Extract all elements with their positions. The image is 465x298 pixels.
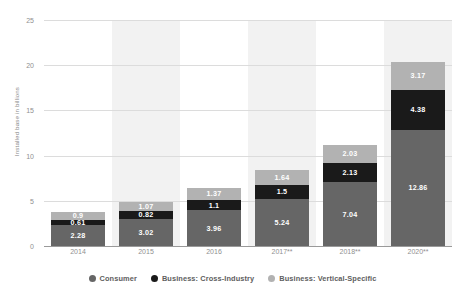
bar-segment-vertical-2014[interactable]: 0.9 (51, 212, 105, 220)
x-axis-tick-2015: 2015 (138, 248, 154, 255)
legend-item-consumer[interactable]: Consumer (89, 274, 137, 283)
bar-segment-consumer-2016[interactable]: 3.96 (187, 210, 241, 246)
bar-segment-consumer-2017[interactable]: 5.24 (255, 199, 309, 246)
bar-value-label: 12.86 (408, 184, 427, 191)
bar-segment-consumer-2018[interactable]: 7.04 (323, 182, 377, 246)
bar-group-2020[interactable]: 12.864.383.17 (391, 62, 445, 247)
legend-swatch-icon (151, 275, 158, 282)
bar-value-label: 0.61 (71, 219, 86, 226)
bar-segment-cross-2014[interactable]: 0.61 (51, 220, 105, 226)
bar-value-label: 1.37 (207, 190, 222, 197)
axis-baseline (44, 246, 452, 247)
bar-group-2017[interactable]: 5.241.51.64 (255, 170, 309, 246)
y-axis-tick-0: 0 (30, 243, 34, 250)
y-axis-tick-15: 15 (26, 107, 34, 114)
bar-segment-cross-2018[interactable]: 2.13 (323, 163, 377, 182)
bar-value-label: 4.38 (411, 106, 426, 113)
x-axis-tick-2014: 2014 (70, 248, 86, 255)
bar-value-label: 2.03 (343, 150, 358, 157)
x-axis-tick-2016: 2016 (206, 248, 222, 255)
legend-item-business-vertical-specific[interactable]: Business: Vertical-Specific (268, 274, 376, 283)
bar-value-label: 1.5 (277, 188, 288, 195)
plot-area: 2.280.610.93.020.821.073.961.11.375.241.… (44, 20, 452, 246)
bar-segment-vertical-2018[interactable]: 2.03 (323, 145, 377, 163)
bar-value-label: 0.82 (139, 211, 154, 218)
bar-value-label: 2.13 (343, 169, 358, 176)
bar-value-label: 2.28 (71, 232, 86, 239)
bar-value-label: 1.64 (275, 174, 290, 181)
legend-label: Consumer (100, 274, 137, 283)
bar-segment-consumer-2014[interactable]: 2.28 (51, 225, 105, 246)
chart-legend: ConsumerBusiness: Cross-IndustryBusiness… (0, 274, 465, 283)
x-axis-tick-2017: 2017** (271, 248, 292, 255)
legend-swatch-icon (268, 275, 275, 282)
bar-value-label: 7.04 (343, 211, 358, 218)
x-axis-tick-2020: 2020** (407, 248, 428, 255)
bar-value-label: 3.17 (411, 72, 426, 79)
y-axis-tick-labels: 0510152025 (0, 20, 40, 246)
y-axis-tick-20: 20 (26, 62, 34, 69)
bar-groups: 2.280.610.93.020.821.073.961.11.375.241.… (44, 20, 452, 246)
bar-value-label: 0.9 (73, 212, 84, 219)
bar-value-label: 1.07 (139, 203, 154, 210)
bar-value-label: 3.96 (207, 225, 222, 232)
bar-value-label: 1.1 (209, 202, 220, 209)
y-axis-tick-10: 10 (26, 152, 34, 159)
bar-segment-vertical-2017[interactable]: 1.64 (255, 170, 309, 185)
bar-segment-cross-2015[interactable]: 0.82 (119, 211, 173, 218)
bar-segment-cross-2017[interactable]: 1.5 (255, 185, 309, 199)
bar-group-2016[interactable]: 3.961.11.37 (187, 188, 241, 246)
x-axis-tick-labels: 2014201520162017**2018**2020** (44, 248, 452, 264)
y-axis-tick-5: 5 (30, 197, 34, 204)
x-axis-tick-2018: 2018** (339, 248, 360, 255)
bar-group-2014[interactable]: 2.280.610.9 (51, 212, 105, 246)
bar-value-label: 3.02 (139, 229, 154, 236)
legend-label: Business: Vertical-Specific (279, 274, 376, 283)
legend-item-business-cross-industry[interactable]: Business: Cross-Industry (151, 274, 254, 283)
bar-segment-consumer-2015[interactable]: 3.02 (119, 219, 173, 246)
legend-swatch-icon (89, 275, 96, 282)
bar-segment-cross-2020[interactable]: 4.38 (391, 90, 445, 130)
bar-segment-cross-2016[interactable]: 1.1 (187, 200, 241, 210)
bar-segment-consumer-2020[interactable]: 12.86 (391, 130, 445, 246)
bar-segment-vertical-2015[interactable]: 1.07 (119, 202, 173, 212)
bar-group-2018[interactable]: 7.042.132.03 (323, 145, 377, 246)
stacked-bar-chart: Installed base in billions 0510152025 2.… (0, 0, 465, 298)
bar-segment-vertical-2020[interactable]: 3.17 (391, 62, 445, 91)
legend-label: Business: Cross-Industry (162, 274, 254, 283)
bar-segment-vertical-2016[interactable]: 1.37 (187, 188, 241, 200)
bar-value-label: 5.24 (275, 219, 290, 226)
bar-group-2015[interactable]: 3.020.821.07 (119, 202, 173, 246)
y-axis-tick-25: 25 (26, 17, 34, 24)
